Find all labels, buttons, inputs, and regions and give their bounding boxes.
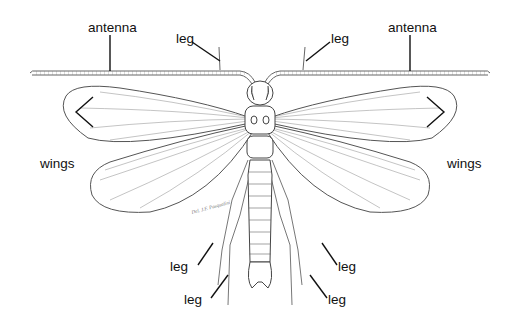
front-leg-right — [303, 47, 305, 70]
label-leg-front-left: leg — [176, 31, 194, 46]
artist-signature: Del. J.F. Pasqualini — [190, 200, 231, 216]
label-leg-mid-right: leg — [338, 259, 356, 274]
label-antenna-right: antenna — [388, 20, 437, 35]
insect-anatomy-diagram: Del. J.F. Pasqualini antenna antenna leg… — [0, 0, 520, 328]
label-leg-front-right: leg — [331, 31, 349, 46]
label-leg-hind-right: leg — [328, 292, 346, 307]
label-wings-right: wings — [446, 156, 482, 171]
insect-body — [245, 81, 275, 288]
insect-illustration: Del. J.F. Pasqualini antenna antenna leg… — [0, 0, 520, 328]
label-antenna-left: antenna — [88, 20, 137, 35]
antenna-right — [262, 71, 490, 90]
label-leg-hind-left: leg — [184, 292, 202, 307]
front-leg-left — [219, 47, 220, 70]
label-leg-mid-left: leg — [170, 259, 188, 274]
wings-left — [63, 86, 254, 212]
label-wings-left: wings — [39, 156, 75, 171]
antenna-left — [30, 71, 258, 90]
wings-right — [266, 86, 457, 212]
